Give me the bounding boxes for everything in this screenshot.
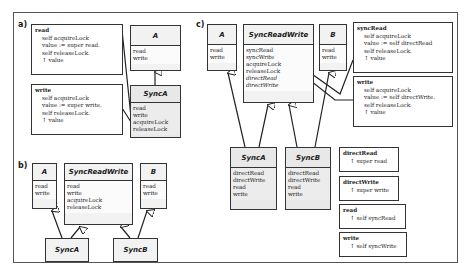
code-note-syncread: syncRead self acquireLock value := self … bbox=[353, 22, 453, 73]
class-name: SyncA bbox=[231, 148, 276, 168]
class-a: A read write bbox=[130, 25, 181, 71]
class-name: B bbox=[320, 25, 346, 45]
method-name: directRead bbox=[343, 150, 395, 158]
method: read bbox=[133, 48, 178, 55]
method: read bbox=[210, 47, 234, 54]
class-name: SyncReadWrite bbox=[244, 25, 313, 45]
class-name: B bbox=[141, 164, 166, 181]
method: directRead bbox=[288, 170, 328, 177]
code-line: ↑ value bbox=[35, 117, 119, 125]
code-line: self acquireLock bbox=[357, 33, 449, 41]
method: read bbox=[35, 183, 54, 190]
class-b: B read write bbox=[319, 24, 347, 71]
panel-c-label: c) bbox=[196, 20, 204, 29]
method: acquireLock bbox=[67, 197, 130, 204]
method: directWrite bbox=[288, 177, 328, 184]
class-syncreadwrite: SyncReadWrite read write acquireLock rel… bbox=[64, 163, 133, 225]
method: directWrite bbox=[246, 82, 311, 89]
method: directWrite bbox=[233, 177, 274, 184]
method: directRead bbox=[246, 75, 311, 82]
class-b: B read write bbox=[140, 163, 167, 209]
class-name: A bbox=[131, 26, 180, 46]
class-syncb: SyncB directRead directWrite read write bbox=[285, 147, 331, 210]
code-line: self releaseLock. bbox=[357, 102, 449, 110]
method: write bbox=[288, 191, 328, 198]
code-line: ↑ value bbox=[35, 57, 119, 65]
code-note-directread: directRead ↑ super read bbox=[339, 147, 399, 172]
method: syncWrite bbox=[246, 54, 311, 61]
code-line: value := self directRead bbox=[357, 40, 449, 48]
code-line: ↑ self syncWrite bbox=[343, 243, 403, 251]
code-line: ↑ value bbox=[357, 55, 449, 63]
code-line: ↑ super write bbox=[343, 187, 395, 195]
method: read bbox=[143, 183, 164, 190]
code-line: self releaseLock. bbox=[35, 50, 119, 58]
class-name: SyncB bbox=[114, 239, 157, 260]
method: read bbox=[67, 183, 130, 190]
code-line: self acquireLock bbox=[35, 35, 119, 43]
method: write bbox=[233, 191, 274, 198]
method: read bbox=[133, 105, 178, 112]
class-synca: SyncA bbox=[45, 238, 89, 262]
method-name: write bbox=[357, 79, 449, 87]
code-line: ↑ super read bbox=[343, 158, 395, 166]
class-name: SyncA bbox=[46, 239, 88, 260]
code-line: self releaseLock. bbox=[35, 110, 119, 118]
code-line: value := super read. bbox=[35, 42, 119, 50]
class-syncb: SyncB bbox=[113, 238, 158, 262]
code-note-directwrite: directWrite ↑ super write bbox=[339, 176, 399, 201]
method: read bbox=[322, 47, 344, 54]
panel-a-label: a) bbox=[18, 20, 27, 29]
class-name: SyncReadWrite bbox=[65, 164, 132, 181]
code-note-write-2: write ↑ self syncWrite bbox=[339, 232, 407, 257]
method: acquireLock bbox=[246, 61, 311, 68]
panel-b-label: b) bbox=[18, 161, 27, 170]
method: write bbox=[133, 112, 178, 119]
class-synca: SyncA read write acquireLock releaseLock bbox=[130, 85, 181, 138]
class-name: A bbox=[33, 164, 56, 181]
code-line: self acquireLock bbox=[35, 95, 119, 103]
method-name: syncRead bbox=[357, 25, 449, 33]
method: releaseLock bbox=[133, 126, 178, 133]
method: directRead bbox=[233, 170, 274, 177]
code-note-write: write self acquireLock value := super wr… bbox=[31, 84, 123, 135]
method: releaseLock bbox=[67, 204, 130, 211]
method-name: read bbox=[35, 27, 119, 35]
class-synca: SyncA directRead directWrite read write bbox=[230, 147, 277, 210]
method: write bbox=[210, 54, 234, 61]
method: write bbox=[35, 190, 54, 197]
method: write bbox=[133, 55, 178, 62]
code-line: self acquireLock bbox=[357, 87, 449, 95]
code-line: ↑ self syncRead bbox=[343, 215, 402, 223]
code-note-read: read ↑ self syncRead bbox=[339, 204, 406, 229]
class-name: SyncB bbox=[286, 148, 330, 168]
method: write bbox=[67, 190, 130, 197]
class-name: A bbox=[208, 25, 236, 45]
code-line: ↑ value bbox=[357, 109, 449, 117]
method: syncRead bbox=[246, 47, 311, 54]
method: write bbox=[322, 54, 344, 61]
method: write bbox=[143, 190, 164, 197]
code-line: self releaseLock. bbox=[357, 48, 449, 56]
method-name: write bbox=[35, 87, 119, 95]
class-name: SyncA bbox=[131, 86, 180, 103]
method-name: write bbox=[343, 235, 403, 243]
method-name: read bbox=[343, 207, 402, 215]
class-syncreadwrite: SyncReadWrite syncRead syncWrite acquire… bbox=[243, 24, 314, 103]
code-note-write: write self acquireLock value := self dir… bbox=[353, 76, 453, 127]
class-a: A read write bbox=[207, 24, 237, 71]
method: acquireLock bbox=[133, 119, 178, 126]
code-note-read: read self acquireLock value := super rea… bbox=[31, 24, 123, 75]
method: read bbox=[288, 184, 328, 191]
code-line: value := super write. bbox=[35, 102, 119, 110]
method: releaseLock bbox=[246, 68, 311, 75]
code-line: value := self directWrite. bbox=[357, 94, 449, 102]
method-name: directWrite bbox=[343, 179, 395, 187]
method: read bbox=[233, 184, 274, 191]
class-a: A read write bbox=[32, 163, 57, 209]
